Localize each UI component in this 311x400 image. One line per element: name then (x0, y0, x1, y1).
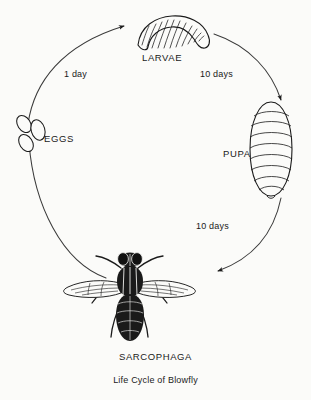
transition-label-larvae-to-pupa: 10 days (200, 69, 233, 79)
stage-label-pupa: PUPA (223, 148, 251, 159)
transition-label-pupa-to-fly: 10 days (196, 221, 229, 231)
stage-label-sarcophaga: SARCOPHAGA (0, 351, 311, 362)
figure-caption: Life Cycle of Blowfly (0, 375, 311, 385)
arrow-larvae-to-pupa (214, 34, 281, 100)
eggs-cluster-icon (14, 113, 48, 154)
pupa-case-icon (250, 102, 292, 198)
life-cycle-diagram: LARVAE EGGS PUPA SARCOPHAGA 1 day 10 day… (0, 0, 311, 400)
maggot-larva-icon (138, 16, 209, 50)
transition-label-eggs-to-larvae: 1 day (64, 69, 87, 79)
stage-label-eggs: EGGS (44, 133, 74, 144)
stage-label-larvae: LARVAE (142, 52, 182, 63)
arrow-fly-to-eggs (29, 143, 106, 278)
arrow-pupa-to-fly (218, 198, 281, 271)
